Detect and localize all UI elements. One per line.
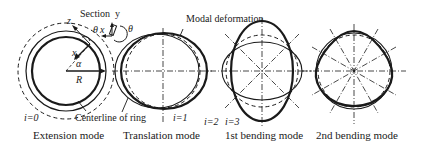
- radius-label: R: [75, 74, 82, 85]
- index-label-extension: i=0: [24, 112, 39, 123]
- section-icon: [101, 22, 127, 42]
- caption-translation: Translation mode: [123, 129, 200, 141]
- second-bending-figure: [302, 24, 406, 124]
- extension-mode-figure: [18, 23, 114, 119]
- x-local-label: x: [71, 47, 77, 58]
- z-axis-label: z: [66, 15, 71, 26]
- theta-label-1: θ: [93, 24, 98, 35]
- y-axis-label: y: [115, 8, 120, 19]
- first-bending-figure: [210, 18, 312, 126]
- caption-first-bending: 1st bending mode: [225, 129, 303, 141]
- x-axis-label: x: [99, 24, 105, 35]
- modal-deformation-label: Modal deformation: [186, 13, 263, 24]
- section-label: Section: [80, 8, 110, 19]
- ring-modes-diagram: Section y θ x θ z x α R Modal deformatio…: [0, 0, 426, 150]
- index-label-first-bending: i=2: [204, 116, 219, 127]
- caption-extension: Extension mode: [33, 129, 104, 141]
- index-label-second-bending: i=3: [225, 116, 240, 127]
- centerline-label: Centerline of ring: [75, 112, 146, 123]
- theta-label-2: θ: [128, 23, 133, 34]
- translation-mode-figure: [112, 28, 212, 122]
- alpha-label: α: [76, 58, 82, 69]
- index-label-translation: i=1: [173, 112, 188, 123]
- caption-second-bending: 2nd bending mode: [316, 129, 398, 141]
